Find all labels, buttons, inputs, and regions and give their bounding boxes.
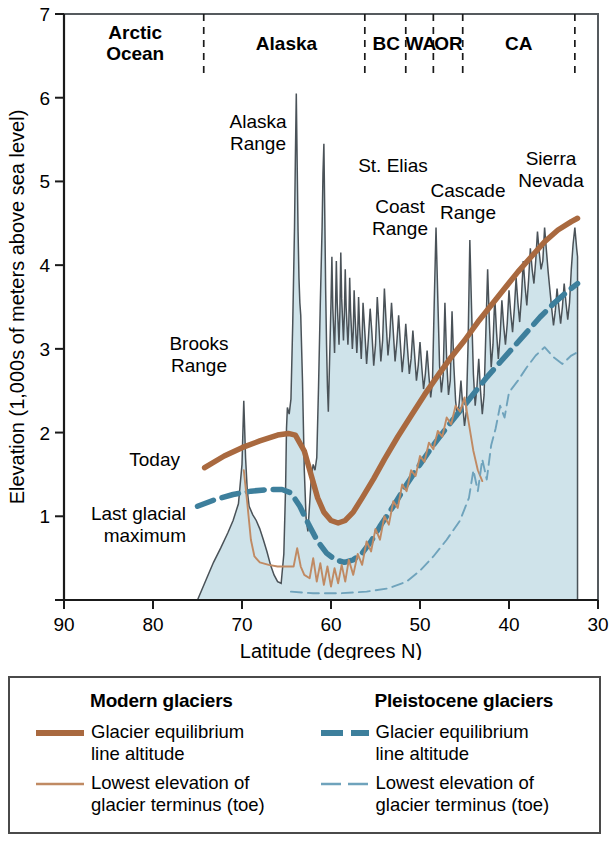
legend-entry-pleistocene-ela: Glacier equilibrium line altitude: [319, 721, 600, 765]
x-tick-label-70: 70: [231, 614, 252, 635]
peak-label-sierra-nevada: Nevada: [518, 170, 584, 191]
x-axis-title: Latitude (degrees N): [240, 640, 422, 660]
region-label-arctic-2: Ocean: [106, 43, 164, 64]
x-tick-label-50: 50: [409, 614, 430, 635]
peak-label-sierra-nevada: Sierra: [526, 148, 577, 169]
legend-heading-pleistocene: Pleistocene glaciers: [375, 690, 600, 712]
legend-column-modern: Modern glaciers Glacier equilibrium line…: [10, 690, 305, 832]
peak-label-alaska-range: Alaska: [229, 111, 286, 132]
curve-label-lgm-1: Last glacial: [91, 503, 186, 524]
region-label-alaska: Alaska: [256, 33, 318, 54]
y-axis-title: Elevation (1,000s of meters above sea le…: [6, 110, 28, 505]
y-tick-label-4: 4: [39, 255, 50, 276]
legend-columns: Modern glaciers Glacier equilibrium line…: [10, 678, 599, 832]
region-label-bc: BC: [372, 33, 400, 54]
legend-label-pleistocene-ela: Glacier equilibrium line altitude: [376, 721, 529, 765]
y-tick-label-2: 2: [39, 423, 50, 444]
y-tick-label-1: 1: [39, 506, 50, 527]
y-tick-label-5: 5: [39, 171, 50, 192]
x-tick-label-90: 90: [53, 614, 74, 635]
x-tick-label-80: 80: [142, 614, 163, 635]
region-label-or: OR: [434, 33, 463, 54]
line-swatch-dashed-thick-icon: [319, 721, 371, 745]
legend-label-modern-toe: Lowest elevation of glacier terminus (to…: [91, 772, 265, 816]
peak-label-st-elias: St. Elias: [358, 155, 428, 176]
y-tick-label-7: 7: [39, 4, 50, 25]
curve-label-lgm-2: maximum: [104, 525, 186, 546]
y-tick-label-3: 3: [39, 339, 50, 360]
region-label-wa: WA: [406, 33, 437, 54]
peak-label-brooks-range: Range: [171, 355, 227, 376]
line-swatch-solid-thick-icon: [34, 721, 86, 745]
x-tick-label-60: 60: [320, 614, 341, 635]
peak-label-cascade-range: Cascade: [431, 180, 506, 201]
legend-column-pleistocene: Pleistocene glaciers Glacier equilibrium…: [305, 690, 600, 832]
legend-label-pleistocene-toe: Lowest elevation of glacier terminus (to…: [376, 772, 550, 816]
legend-entry-pleistocene-toe: Lowest elevation of glacier terminus (to…: [319, 772, 600, 816]
x-tick-label-40: 40: [498, 614, 519, 635]
legend-entry-modern-toe: Lowest elevation of glacier terminus (to…: [34, 772, 305, 816]
peak-label-coast-range: Range: [372, 218, 428, 239]
x-tick-label-30: 30: [587, 614, 608, 635]
region-label-arctic-1: Arctic: [108, 22, 162, 43]
legend-label-modern-ela: Glacier equilibrium line altitude: [91, 721, 244, 765]
peak-label-alaska-range: Range: [230, 133, 286, 154]
peak-label-brooks-range: Brooks: [169, 333, 228, 354]
curve-label-today: Today: [129, 449, 180, 470]
peak-label-cascade-range: Range: [440, 202, 496, 223]
legend-heading-modern: Modern glaciers: [90, 690, 305, 712]
peak-label-coast-range: Coast: [375, 196, 425, 217]
legend-entry-modern-ela: Glacier equilibrium line altitude: [34, 721, 305, 765]
chart-canvas: ArcticOceanAlaskaBCWAORCAAlaskaRangeSt. …: [0, 0, 611, 660]
chart-legend: Modern glaciers Glacier equilibrium line…: [8, 676, 601, 834]
line-swatch-solid-thin-icon: [34, 772, 86, 796]
glacier-elevation-chart: ArcticOceanAlaskaBCWAORCAAlaskaRangeSt. …: [0, 0, 611, 660]
line-swatch-dashed-thin-icon: [319, 772, 371, 796]
region-label-ca: CA: [505, 33, 533, 54]
y-tick-label-6: 6: [39, 88, 50, 109]
